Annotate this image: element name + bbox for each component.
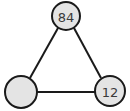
- node-bottom-left: [5, 76, 37, 108]
- edge-top-bottom-right: [74, 28, 101, 78]
- node-bottom-right-label: 12: [102, 85, 119, 100]
- triangle-diagram: 84 12: [0, 0, 130, 111]
- edge-top-bottom-left: [30, 28, 58, 78]
- node-bottom-right: 12: [95, 76, 125, 106]
- node-bottom-left-circle: [5, 76, 37, 108]
- node-top-label: 84: [58, 10, 75, 25]
- node-top: 84: [52, 2, 80, 30]
